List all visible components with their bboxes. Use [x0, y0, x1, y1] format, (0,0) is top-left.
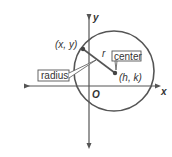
radius-callout-pointer — [69, 60, 96, 78]
center-callout-label: center — [114, 51, 142, 62]
center-point — [113, 71, 117, 75]
origin-label: O — [92, 89, 100, 100]
center-point-label: (h, k) — [119, 72, 142, 83]
radius-symbol-label: r — [102, 48, 106, 59]
x-axis-label: x — [160, 86, 167, 97]
circle-diagram: y x O (x, y) (h, k) r center radius — [0, 0, 172, 157]
circle — [74, 31, 154, 111]
radius-segment — [83, 49, 115, 73]
center-callout-pointer — [115, 61, 117, 70]
radius-callout-label: radius — [41, 70, 68, 81]
point-on-circle — [81, 47, 85, 51]
point-on-circle-label: (x, y) — [55, 39, 77, 50]
y-axis-label: y — [92, 12, 99, 23]
